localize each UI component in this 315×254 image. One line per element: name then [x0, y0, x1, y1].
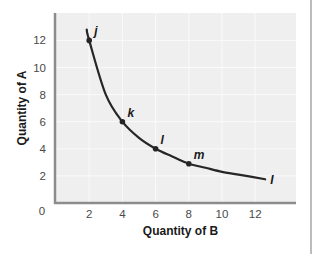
data-point-k [120, 119, 126, 125]
y-axis-title: Quantity of A [15, 70, 29, 145]
x-tick-label: 12 [249, 208, 262, 220]
data-point-m [186, 161, 192, 167]
data-point-j [86, 38, 92, 44]
y-tick-label: 2 [40, 170, 46, 182]
data-point-l [153, 146, 159, 152]
x-tick-label: 2 [86, 208, 92, 220]
y-tick-label: 12 [33, 34, 46, 46]
y-tick-label: 4 [40, 143, 47, 155]
y-ticks: 24681012 [33, 34, 46, 182]
y-tick-label: 10 [33, 62, 46, 74]
point-label-m: m [194, 148, 205, 162]
x-tick-label: 6 [152, 208, 158, 220]
y-tick-label: 6 [40, 116, 46, 128]
y-tick-label: 8 [40, 89, 46, 101]
indifference-curve-chart: 24681012 24681012 0 jklm I Quantity of B… [0, 0, 315, 254]
x-ticks: 24681012 [86, 208, 262, 220]
x-axis-title: Quantity of B [143, 224, 219, 238]
x-tick-label: 10 [216, 208, 229, 220]
origin-label: 0 [39, 205, 45, 217]
x-tick-label: 8 [186, 208, 192, 220]
x-tick-label: 4 [119, 208, 126, 220]
